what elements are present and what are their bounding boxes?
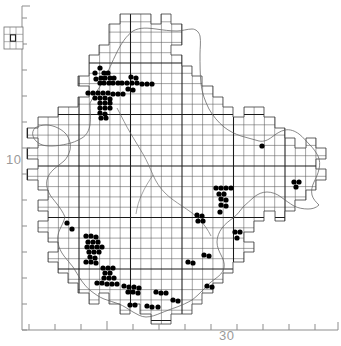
occurrence-dot xyxy=(132,302,137,307)
occurrence-dot xyxy=(105,90,110,95)
occurrence-dot xyxy=(104,281,109,286)
occurrence-dot xyxy=(194,212,199,217)
occurrence-dot xyxy=(200,218,205,223)
occurrence-dot xyxy=(115,91,120,96)
occurrence-dot xyxy=(149,81,154,86)
occurrence-dot xyxy=(110,80,115,85)
occurrence-dot xyxy=(102,95,107,100)
occurrence-dot xyxy=(163,290,168,295)
occurrence-dot xyxy=(107,105,112,110)
occurrence-dot xyxy=(296,179,301,184)
occurrence-dot xyxy=(94,244,99,249)
occurrence-dot xyxy=(93,76,98,81)
occurrence-dot xyxy=(86,249,91,254)
occurrence-dot xyxy=(223,197,228,202)
occurrence-dot xyxy=(170,297,175,302)
occurrence-dot xyxy=(128,74,133,79)
occurrence-dot xyxy=(92,255,97,260)
occurrence-dot xyxy=(95,90,100,95)
occurrence-dot xyxy=(110,91,115,96)
map-canvas: 10 30 xyxy=(0,0,341,346)
occurrence-dot xyxy=(129,80,134,85)
occurrence-dot xyxy=(190,260,195,265)
occurrence-dot xyxy=(69,226,74,231)
occurrence-dot xyxy=(125,289,130,294)
occurrence-dot xyxy=(99,244,104,249)
occurrence-dot xyxy=(97,65,102,70)
occurrence-dot xyxy=(124,80,129,85)
occurrence-dot xyxy=(105,265,110,270)
occurrence-dot xyxy=(175,298,180,303)
occurrence-dot xyxy=(92,95,97,100)
occurrence-dot xyxy=(135,290,140,295)
occurrence-dot xyxy=(114,281,119,286)
occurrence-dot xyxy=(97,95,102,100)
occurrence-dot xyxy=(126,284,131,289)
occurrence-dot xyxy=(105,70,110,75)
occurrence-dot xyxy=(149,304,154,309)
occurrence-dot xyxy=(87,254,92,259)
occurrence-dot xyxy=(98,115,103,120)
occurrence-dot xyxy=(144,81,149,86)
occurrence-dot xyxy=(97,105,102,110)
occurrence-dot xyxy=(94,280,99,285)
occurrence-dot xyxy=(221,191,226,196)
occurrence-dot xyxy=(130,87,135,92)
occurrence-dot xyxy=(103,115,108,120)
occurrence-dot xyxy=(133,75,138,80)
occurrence-dot xyxy=(96,249,101,254)
occurrence-dot xyxy=(107,270,112,275)
occurrence-dot xyxy=(90,90,95,95)
occurrence-dot xyxy=(88,233,93,238)
occurrence-dot xyxy=(218,196,223,201)
occurrence-dot xyxy=(217,209,222,214)
occurrence-dot xyxy=(130,289,135,294)
occurrence-dot xyxy=(110,265,115,270)
occurrence-dot xyxy=(90,239,95,244)
species-distribution-map: 10 30 xyxy=(0,0,341,346)
occurrence-dot xyxy=(228,185,233,190)
occurrence-dot xyxy=(84,244,89,249)
occurrence-dot xyxy=(97,110,102,115)
occurrence-dot xyxy=(93,234,98,239)
map-background xyxy=(0,0,341,346)
occurrence-dot xyxy=(134,80,139,85)
occurrence-dot xyxy=(218,185,223,190)
occurrence-dot xyxy=(101,80,106,85)
occurrence-dot xyxy=(106,275,111,280)
occurrence-dot xyxy=(153,289,158,294)
occurrence-dot xyxy=(201,252,206,257)
occurrence-dot xyxy=(125,86,130,91)
occurrence-dot xyxy=(85,239,90,244)
occurrence-dot xyxy=(223,203,228,208)
occurrence-dot xyxy=(83,233,88,238)
occurrence-dot xyxy=(144,303,149,308)
occurrence-dot xyxy=(232,229,237,234)
occurrence-dot xyxy=(102,100,107,105)
occurrence-dot xyxy=(92,70,97,75)
occurrence-dot xyxy=(209,284,214,289)
occurrence-dot xyxy=(131,284,136,289)
occurrence-dot xyxy=(83,259,88,264)
occurrence-dot xyxy=(199,213,204,218)
occurrence-dot xyxy=(223,185,228,190)
occurrence-dot xyxy=(195,218,200,223)
occurrence-dot xyxy=(121,283,126,288)
occurrence-dot xyxy=(234,235,239,240)
x-axis-label: 30 xyxy=(219,328,234,343)
occurrence-dot xyxy=(85,90,90,95)
occurrence-dot xyxy=(237,229,242,234)
occurrence-dot xyxy=(93,260,98,265)
y-axis-label: 10 xyxy=(6,152,21,167)
occurrence-dot xyxy=(64,220,69,225)
occurrence-dot xyxy=(95,239,100,244)
occurrence-dot xyxy=(259,143,264,148)
occurrence-dot xyxy=(213,185,218,190)
occurrence-dot xyxy=(111,275,116,280)
occurrence-dot xyxy=(139,81,144,86)
occurrence-dot xyxy=(185,259,190,264)
occurrence-dot xyxy=(204,283,209,288)
occurrence-dot xyxy=(102,270,107,275)
occurrence-dot xyxy=(89,244,94,249)
occurrence-dot xyxy=(216,191,221,196)
